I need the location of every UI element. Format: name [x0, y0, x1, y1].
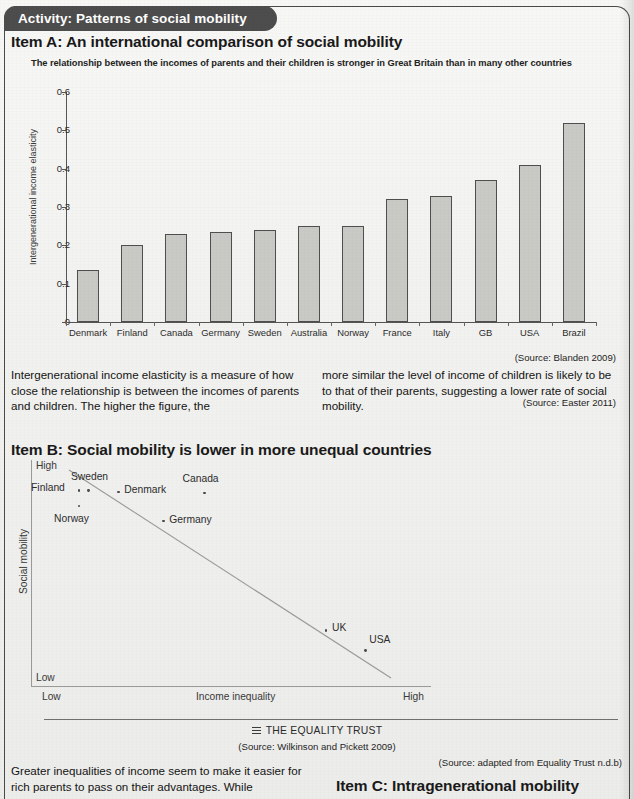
equality-trust-bars-icon — [252, 727, 261, 735]
scatter-point — [203, 492, 206, 495]
scatter-point — [87, 489, 90, 492]
scatter-y-high-label: High — [36, 460, 57, 471]
scatter-chart: Social mobility High Low Low Income ineq… — [6, 458, 628, 713]
bar-chart-x-label: France — [375, 327, 419, 338]
scatter-x-axis-title: Income inequality — [196, 691, 275, 702]
bar-chart-bar — [210, 232, 232, 322]
scatter-x-low-label: Low — [42, 691, 61, 702]
scatter-point-label: Germany — [169, 514, 211, 525]
bar-chart-bar — [430, 196, 452, 323]
item-a-source: (Source: Blanden 2009) — [515, 352, 616, 363]
bar-chart-x-label: Denmark — [66, 327, 110, 338]
bar-chart-x-tick-mark — [596, 322, 597, 326]
item-a-paragraph-left: Intergenerational income elasticity is a… — [11, 367, 307, 414]
bar-chart-y-tick-mark — [62, 284, 66, 285]
equality-trust-logo: THE EQUALITY TRUST — [0, 725, 634, 736]
item-b-source: (Source: Wilkinson and Pickett 2009) — [0, 741, 634, 752]
scatter-point — [78, 489, 81, 492]
item-a-source-easter: (Source: Easter 2011) — [523, 397, 616, 408]
scatter-trend-line — [6, 458, 628, 713]
bar-chart-x-tick-mark — [419, 322, 420, 326]
textbook-page: Activity: Patterns of social mobility It… — [0, 0, 634, 799]
scatter-y-axis-title: Social mobility — [18, 507, 29, 617]
scatter-point-label: UK — [332, 622, 346, 633]
bar-chart-x-tick-mark — [552, 322, 553, 326]
scatter-y-axis — [31, 460, 32, 686]
scatter-point — [325, 629, 328, 632]
bar-chart-x-tick-mark — [110, 322, 111, 326]
scatter-point-label: Norway — [54, 513, 89, 524]
bar-chart-y-tick-mark — [62, 92, 66, 93]
bar-chart-x-label: Canada — [154, 327, 198, 338]
scatter-point-label: USA — [369, 634, 390, 645]
bar-chart-x-label: Norway — [331, 327, 375, 338]
bar-chart-x-label: Brazil — [552, 327, 596, 338]
scatter-point — [117, 491, 120, 494]
bar-chart-x-tick-mark — [287, 322, 288, 326]
bar-chart-bar — [77, 270, 99, 322]
bar-chart-x-label: USA — [508, 327, 552, 338]
bar-chart-x-tick-mark — [331, 322, 332, 326]
bar-chart-bar — [298, 226, 320, 322]
item-c-heading: Item C: Intragenerational mobility — [336, 777, 579, 795]
bar-chart-y-tick-mark — [62, 169, 66, 170]
activity-tab: Activity: Patterns of social mobility — [4, 6, 277, 31]
bar-chart-x-label: Australia — [287, 327, 331, 338]
scatter-point-label: Finland — [31, 482, 65, 493]
scatter-x-high-label: High — [403, 691, 424, 702]
bar-chart: Intergenerational income elasticity 00.1… — [14, 84, 614, 352]
bar-chart-x-label: Germany — [199, 327, 243, 338]
bar-chart-bar — [165, 234, 187, 322]
activity-tab-label: Activity: Patterns of social mobility — [18, 11, 247, 26]
bar-chart-x-label: Italy — [419, 327, 463, 338]
equality-trust-rule — [44, 719, 618, 720]
item-a-chart-subtitle: The relationship between the incomes of … — [31, 58, 572, 68]
bar-chart-x-label: Sweden — [243, 327, 287, 338]
item-b-heading: Item B: Social mobility is lower in more… — [11, 441, 432, 459]
scatter-point — [78, 505, 81, 508]
scatter-point — [162, 520, 165, 523]
bar-chart-x-tick-mark — [508, 322, 509, 326]
bar-chart-bar — [386, 199, 408, 322]
bar-chart-x-tick-mark — [66, 322, 67, 326]
bar-chart-y-tick-mark — [62, 207, 66, 208]
scatter-point-label: Denmark — [124, 484, 166, 495]
bar-chart-bar — [342, 226, 364, 322]
bar-chart-x-tick-mark — [375, 322, 376, 326]
bar-chart-y-axis-title: Intergenerational income elasticity — [28, 112, 38, 282]
bar-chart-x-label: Finland — [110, 327, 154, 338]
bar-chart-x-tick-mark — [464, 322, 465, 326]
scatter-point-label: Sweden — [71, 471, 108, 482]
bar-chart-x-tick-mark — [154, 322, 155, 326]
bar-chart-bar — [121, 245, 143, 322]
bar-chart-bar — [563, 123, 585, 322]
bar-chart-bar — [519, 165, 541, 322]
bar-chart-y-tick-mark — [62, 245, 66, 246]
item-c-paragraph-left: Greater inequalities of income seem to m… — [11, 763, 321, 795]
item-a-heading: Item A: An international comparison of s… — [11, 33, 402, 51]
bar-chart-bar — [254, 230, 276, 322]
bar-chart-bar — [475, 180, 497, 322]
scatter-point-label: Canada — [183, 473, 219, 484]
scatter-point — [364, 649, 367, 652]
item-b-source-equality: (Source: adapted from Equality Trust n.d… — [439, 757, 622, 768]
bar-chart-x-tick-mark — [199, 322, 200, 326]
bar-chart-x-tick-mark — [243, 322, 244, 326]
scatter-y-low-label: Low — [36, 672, 55, 683]
bar-chart-y-tick-mark — [62, 130, 66, 131]
equality-trust-logo-text: THE EQUALITY TRUST — [266, 725, 383, 736]
bar-chart-x-label: GB — [464, 327, 508, 338]
scatter-x-axis — [31, 686, 431, 687]
